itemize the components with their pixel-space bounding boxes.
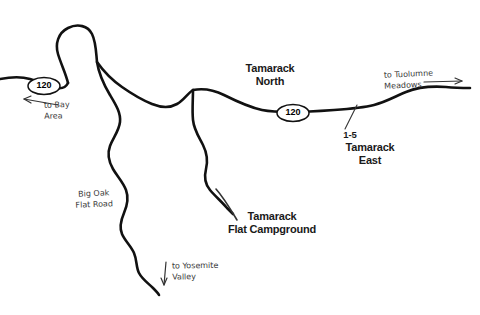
to-yosemite-valley-arrow	[161, 262, 167, 285]
tamarack-flat-area-map: 120 120 Tamarack North Tamarack East Tam…	[0, 0, 480, 315]
route-shield-west-number: 120	[28, 80, 60, 90]
site-range-label: 1-5	[330, 129, 370, 140]
road-label-big-oak-flat-road: Big Oak Flat Road	[59, 187, 130, 211]
place-label-tamarack-north: Tamarack North	[215, 62, 325, 87]
direction-label-to-tuolumne-meadows: to Tuolumne Meadows	[384, 67, 465, 91]
highway-120-central-road	[97, 62, 193, 107]
direction-label-to-yosemite-valley: to Yosemite Valley	[172, 260, 242, 282]
direction-label-to-bay-area: to Bay Area	[44, 99, 105, 122]
place-label-tamarack-east: Tamarack East	[325, 141, 415, 166]
route-shield-east-number: 120	[277, 107, 309, 117]
big-oak-flat-road-line	[57, 26, 159, 295]
campground-spur-road	[193, 90, 233, 214]
place-label-tamarack-flat-campground: Tamarack Flat Campground	[212, 210, 332, 235]
highway-120-east-road	[193, 87, 470, 112]
